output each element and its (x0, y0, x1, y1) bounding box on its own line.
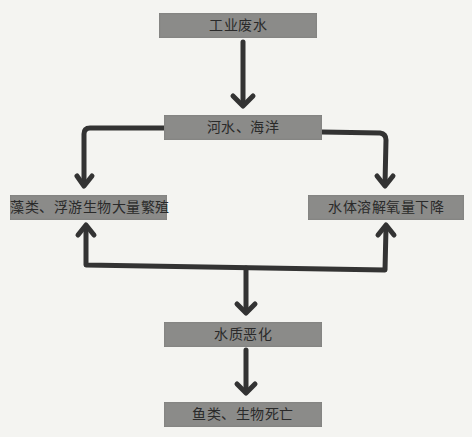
node-algae-bloom: 藻类、浮游生物大量繁殖 (10, 195, 167, 220)
node-water-deterioration: 水质恶化 (164, 322, 322, 347)
arrow-deterioration-to-algae-oxygen (86, 228, 386, 270)
flowchart-canvas: 工业废水 河水、海洋 藻类、浮游生物大量繁殖 水体溶解氧量下降 水质恶化 鱼类、… (0, 0, 472, 437)
node-fish-death: 鱼类、生物死亡 (164, 402, 322, 427)
arrow-rivers-to-algae (84, 128, 164, 184)
node-industrial-wastewater: 工业废水 (159, 13, 317, 38)
node-rivers-oceans: 河水、海洋 (164, 115, 322, 140)
node-oxygen-decline: 水体溶解氧量下降 (308, 195, 464, 220)
